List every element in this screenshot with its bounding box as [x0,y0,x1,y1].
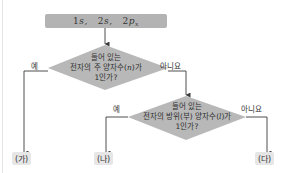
decision-2-yes-label: 예 [113,103,120,114]
orbital-1s: 1s, [73,16,88,26]
decision-1-no-label: 아니요 [160,60,181,71]
decision-1-text: 들어 있는 전자의 주 양자수(n)가 1인가? [58,53,154,83]
result-da: (다) [255,152,274,165]
decision-1-yes-label: 예 [31,60,38,71]
result-na: (나) [94,152,113,165]
decision-2-no-label: 아니요 [241,103,262,114]
result-ga: (가) [12,152,31,165]
decision-2-text: 들어 있는 전자의 방위(부) 양자수(l)가 1인가? [128,102,246,132]
orbital-2s: 2s, [98,16,113,26]
start-orbitals-box: 1s, 2s, 2px [45,14,167,28]
flowchart: 1s, 2s, 2px 들어 있는 전자의 주 양자수(n)가 1인가? 예 아… [0,0,287,173]
orbital-2px: 2px [123,16,139,27]
